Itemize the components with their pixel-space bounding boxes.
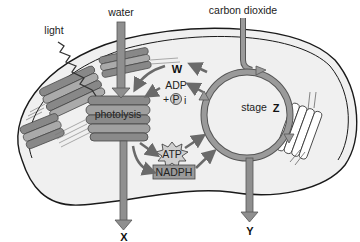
atp-label: ATP xyxy=(162,148,182,160)
y-label: Y xyxy=(246,225,254,237)
carbon-dioxide-label: carbon dioxide xyxy=(209,4,277,16)
adp-label: ADP xyxy=(165,79,187,91)
light-label: light xyxy=(44,24,63,36)
phosphate-p-label: P xyxy=(172,93,179,105)
plus-label: + xyxy=(163,93,169,105)
photolysis-label: photolysis xyxy=(95,108,142,120)
w-label: W xyxy=(172,63,183,75)
stage-label: stage xyxy=(241,101,267,113)
phosphate-i-label: i xyxy=(184,94,186,106)
water-label: water xyxy=(107,6,134,18)
x-label: X xyxy=(120,231,128,242)
stage-z-label: Z xyxy=(273,102,280,114)
chloroplast-diagram: photolysis light water X carbon dioxide xyxy=(0,0,360,242)
nadph-label: NADPH xyxy=(156,166,193,178)
